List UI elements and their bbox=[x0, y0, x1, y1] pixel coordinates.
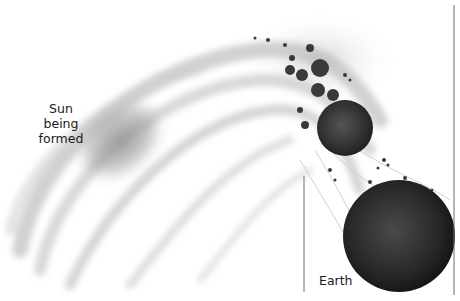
sun-label-line-2: formed bbox=[33, 131, 89, 146]
earth-planet bbox=[343, 180, 455, 292]
earth-label: Earth bbox=[319, 273, 353, 288]
sun-label-line-1: Sun being bbox=[33, 101, 89, 131]
illustration-graphic bbox=[0, 0, 460, 301]
sun-label: Sun being formed bbox=[33, 101, 89, 146]
solar-system-formation-illustration: Sun being formed Earth bbox=[0, 0, 460, 301]
large-planetesimal bbox=[317, 100, 373, 156]
